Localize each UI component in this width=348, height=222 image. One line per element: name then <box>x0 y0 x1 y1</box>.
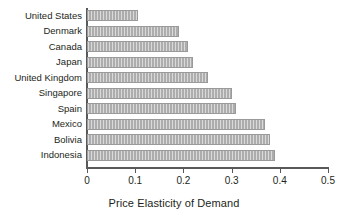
bar-canada <box>87 41 188 52</box>
x-tick-label: 0.3 <box>217 175 247 187</box>
bar-fill <box>87 103 236 114</box>
x-tick-label: 0 <box>72 175 102 187</box>
bar-chart-figure: United StatesDenmarkCanadaJapanUnited Ki… <box>0 0 348 222</box>
bar-fill <box>87 119 265 130</box>
bar-singapore <box>87 88 232 99</box>
bar-fill <box>87 88 232 99</box>
x-tick-label: 0.2 <box>168 175 198 187</box>
category-label-canada: Canada <box>0 41 82 52</box>
x-tick-mark <box>183 168 184 173</box>
bar-fill <box>87 57 193 68</box>
category-label-united-kingdom: United Kingdom <box>0 72 82 83</box>
category-label-denmark: Denmark <box>0 25 82 36</box>
bar-fill <box>87 41 188 52</box>
x-tick-mark <box>135 168 136 173</box>
bar-united-states <box>87 10 138 21</box>
bar-indonesia <box>87 150 275 161</box>
category-label-indonesia: Indonesia <box>0 149 82 160</box>
bar-spain <box>87 103 236 114</box>
category-label-united-states: United States <box>0 10 82 21</box>
x-tick-label: 0.1 <box>120 175 150 187</box>
x-tick-mark <box>280 168 281 173</box>
category-label-singapore: Singapore <box>0 87 82 98</box>
category-label-spain: Spain <box>0 103 82 114</box>
x-tick-mark <box>87 168 88 173</box>
category-label-bolivia: Bolivia <box>0 134 82 145</box>
bar-bolivia <box>87 134 270 145</box>
x-tick-label: 0.4 <box>265 175 295 187</box>
category-label-japan: Japan <box>0 56 82 67</box>
x-tick-mark <box>232 168 233 173</box>
bar-japan <box>87 57 193 68</box>
x-tick-mark <box>328 168 329 173</box>
bar-fill <box>87 72 208 83</box>
x-axis-line <box>86 167 329 169</box>
x-axis-title: Price Elasticity of Demand <box>0 197 348 209</box>
bar-united-kingdom <box>87 72 208 83</box>
bar-fill <box>87 150 275 161</box>
category-label-mexico: Mexico <box>0 118 82 129</box>
bar-denmark <box>87 26 179 37</box>
bar-fill <box>87 10 138 21</box>
bar-mexico <box>87 119 265 130</box>
bar-fill <box>87 26 179 37</box>
bar-fill <box>87 134 270 145</box>
x-tick-label: 0.5 <box>313 175 343 187</box>
